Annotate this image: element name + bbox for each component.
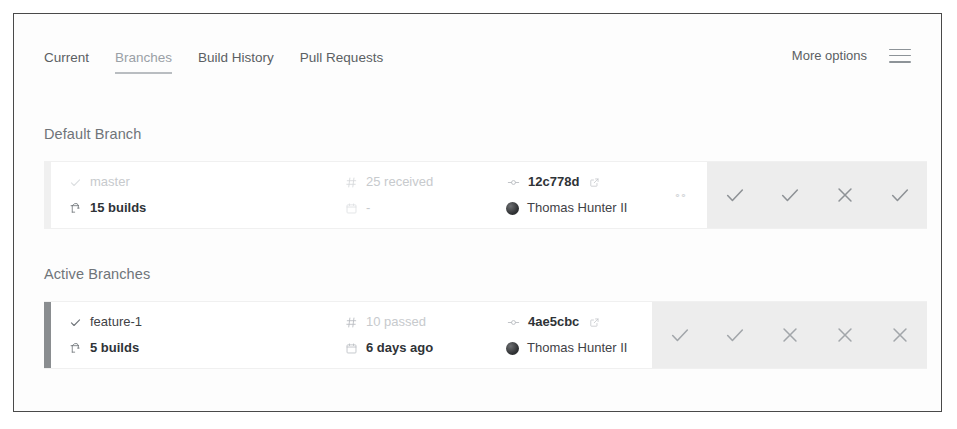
branch-name: master bbox=[90, 175, 130, 189]
main-panel: Current Branches Build History Pull Requ… bbox=[13, 13, 942, 412]
tab-build-history[interactable]: Build History bbox=[198, 46, 274, 74]
status-tile-pending[interactable]: ∘∘ bbox=[652, 162, 707, 228]
builds-count: 15 builds bbox=[90, 201, 146, 215]
external-link-icon[interactable] bbox=[587, 175, 601, 189]
date-line: - bbox=[344, 201, 433, 215]
status-tile-fail[interactable] bbox=[872, 302, 927, 368]
status-tiles: ∘∘ bbox=[652, 162, 927, 228]
status-tile-pass[interactable] bbox=[762, 162, 817, 228]
branch-name-line[interactable]: feature-1 bbox=[68, 315, 142, 329]
builds-line: 5 builds bbox=[68, 341, 142, 355]
commit-hash: 4ae5cbc bbox=[528, 315, 579, 329]
build-count-label: 25 received bbox=[366, 175, 433, 189]
commit-hash: 12c778d bbox=[528, 175, 579, 189]
check-icon bbox=[889, 184, 911, 206]
build-count-line: 25 received bbox=[344, 175, 433, 189]
status-tile-fail[interactable] bbox=[762, 302, 817, 368]
branch-name: feature-1 bbox=[90, 315, 142, 329]
avatar bbox=[506, 202, 519, 215]
check-icon bbox=[779, 184, 801, 206]
builds-count: 5 builds bbox=[90, 341, 139, 355]
build-count-label: 10 passed bbox=[366, 315, 426, 329]
check-icon bbox=[724, 324, 746, 346]
hash-icon bbox=[344, 175, 358, 189]
date-line: 6 days ago bbox=[344, 341, 433, 355]
tab-branches[interactable]: Branches bbox=[115, 46, 172, 74]
author-line: Thomas Hunter II bbox=[506, 201, 627, 215]
build-count-line: 10 passed bbox=[344, 315, 433, 329]
builds-line: 15 builds bbox=[68, 201, 146, 215]
external-link-icon[interactable] bbox=[587, 315, 601, 329]
git-commit-icon bbox=[506, 315, 520, 329]
status-tile-fail[interactable] bbox=[817, 162, 872, 228]
table-row[interactable]: master 15 builds bbox=[44, 161, 927, 229]
hamburger-icon[interactable] bbox=[889, 49, 911, 63]
cross-icon bbox=[889, 324, 911, 346]
calendar-icon bbox=[344, 201, 358, 215]
check-icon bbox=[68, 315, 82, 329]
commit-line[interactable]: 12c778d bbox=[506, 175, 627, 189]
check-icon bbox=[724, 184, 746, 206]
date-label: 6 days ago bbox=[366, 341, 433, 355]
section-title-active-branches: Active Branches bbox=[44, 266, 150, 282]
tab-pull-requests[interactable]: Pull Requests bbox=[300, 46, 383, 74]
author-line: Thomas Hunter II bbox=[506, 341, 627, 355]
tab-current[interactable]: Current bbox=[44, 46, 89, 74]
branch-cell: feature-1 5 builds bbox=[68, 302, 142, 368]
more-options-button[interactable]: More options bbox=[792, 48, 911, 63]
build-info-cell: 25 received - bbox=[344, 162, 433, 228]
commit-line[interactable]: 4ae5cbc bbox=[506, 315, 627, 329]
check-icon bbox=[669, 324, 691, 346]
crane-icon bbox=[68, 201, 82, 215]
author-name: Thomas Hunter II bbox=[527, 201, 627, 215]
author-name: Thomas Hunter II bbox=[527, 341, 627, 355]
status-tile-fail[interactable] bbox=[817, 302, 872, 368]
status-tile-pass[interactable] bbox=[652, 302, 707, 368]
cross-icon bbox=[834, 324, 856, 346]
build-info-cell: 10 passed 6 days ago bbox=[344, 302, 433, 368]
pending-icon: ∘∘ bbox=[674, 189, 686, 202]
crane-icon bbox=[68, 341, 82, 355]
tab-bar: Current Branches Build History Pull Requ… bbox=[14, 46, 941, 92]
section-title-default-branch: Default Branch bbox=[44, 126, 141, 142]
tab-list: Current Branches Build History Pull Requ… bbox=[44, 46, 409, 74]
status-tile-pass[interactable] bbox=[707, 162, 762, 228]
date-label: - bbox=[366, 201, 370, 215]
avatar bbox=[506, 342, 519, 355]
check-icon bbox=[68, 175, 82, 189]
commit-cell: 12c778d Thomas Hunter II bbox=[506, 162, 627, 228]
cross-icon bbox=[834, 184, 856, 206]
table-row[interactable]: feature-1 5 builds bbox=[44, 301, 927, 369]
commit-cell: 4ae5cbc Thomas Hunter II bbox=[506, 302, 627, 368]
status-tiles bbox=[652, 302, 927, 368]
status-tile-pass[interactable] bbox=[707, 302, 762, 368]
hash-icon bbox=[344, 315, 358, 329]
branch-name-line[interactable]: master bbox=[68, 175, 146, 189]
git-commit-icon bbox=[506, 175, 520, 189]
status-tile-pass[interactable] bbox=[872, 162, 927, 228]
cross-icon bbox=[779, 324, 801, 346]
calendar-icon bbox=[344, 341, 358, 355]
more-options-label: More options bbox=[792, 48, 867, 63]
branch-cell: master 15 builds bbox=[68, 162, 146, 228]
